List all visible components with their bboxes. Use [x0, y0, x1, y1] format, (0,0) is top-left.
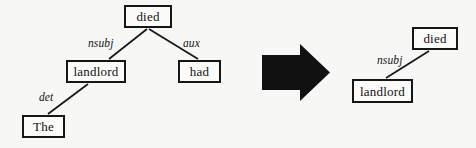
edge-label-aux-left: aux [183, 38, 200, 50]
node-the-left[interactable]: The [22, 115, 65, 138]
node-died-left[interactable]: died [124, 5, 172, 28]
transform-arrow [262, 44, 330, 101]
node-died-right[interactable]: died [412, 27, 458, 50]
node-label: landlord [74, 65, 119, 78]
node-landlord-right[interactable]: landlord [352, 79, 413, 103]
edge-label-det-left: det [39, 92, 53, 104]
edge-label-nsubj-right: nsubj [377, 55, 402, 67]
node-label: landlord [360, 85, 405, 98]
node-landlord-left[interactable]: landlord [66, 60, 126, 83]
edge-label-nsubj-left: nsubj [88, 38, 113, 50]
node-label: died [136, 10, 159, 23]
right-arrow-icon [262, 44, 330, 101]
node-label: died [423, 32, 446, 45]
edge-line-landlord-the [48, 84, 88, 114]
node-had-left[interactable]: had [178, 60, 221, 83]
dependency-tree-figure: died landlord had The nsubj aux det died… [0, 0, 476, 148]
edge-line-died-landlord [109, 29, 147, 59]
node-label: had [190, 65, 209, 78]
node-label: The [33, 120, 54, 133]
